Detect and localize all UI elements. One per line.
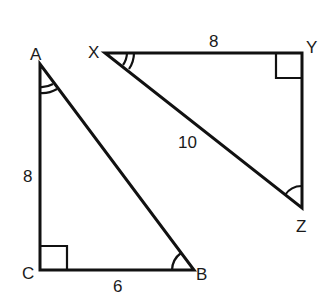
vertex-label-a: A <box>30 45 42 64</box>
triangle-abc <box>40 64 194 270</box>
triangle-xyz-outline <box>105 53 302 208</box>
side-label-cb: 6 <box>113 277 122 296</box>
vertex-label-z: Z <box>296 217 306 236</box>
vertex-label-b: B <box>196 265 207 284</box>
right-angle-marker-c <box>40 246 67 270</box>
vertex-label-c: C <box>22 264 34 283</box>
angle-arc-b <box>172 253 181 270</box>
side-label-xy: 8 <box>209 32 218 51</box>
vertex-label-y: Y <box>306 38 317 57</box>
angle-arc-a-inner <box>40 84 53 87</box>
angle-arc-z <box>285 186 302 195</box>
side-label-ac: 8 <box>23 167 32 186</box>
angle-arc-a-outer <box>40 89 57 93</box>
vertex-label-x: X <box>88 43 99 62</box>
triangle-abc-outline <box>40 64 194 270</box>
triangle-xyz <box>105 53 302 208</box>
side-label-xz: 10 <box>178 133 197 152</box>
similar-triangles-diagram: A B C X Y Z 8 6 8 10 <box>0 0 335 304</box>
angle-arc-x-inner <box>123 53 127 65</box>
angle-arc-x-outer <box>129 53 134 69</box>
right-angle-marker-y <box>276 53 302 78</box>
